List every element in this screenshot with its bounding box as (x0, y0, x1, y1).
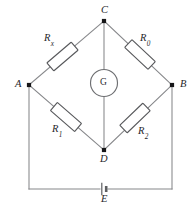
resistor-label-r2-name: R (138, 125, 144, 136)
wheatstone-bridge-figure: C A B D Rx R0 R1 R2 G E (0, 0, 196, 216)
node-label-c: C (101, 5, 108, 16)
resistor-label-r1-name: R (52, 123, 58, 134)
resistor-label-rx-subscript: x (51, 40, 54, 48)
branch-d-b (104, 85, 172, 150)
node-dot-a (27, 83, 31, 87)
node-dot-d (102, 148, 106, 152)
branch-a-d (29, 85, 104, 150)
node-dot-b (170, 83, 174, 87)
node-label-a: A (15, 79, 21, 90)
resistor-label-rx: Rx (44, 33, 54, 46)
resistor-label-r0: R0 (140, 33, 150, 46)
resistor-label-r1: R1 (52, 124, 62, 137)
resistor-label-r0-subscript: 0 (147, 40, 151, 48)
resistor-label-r2-subscript: 2 (145, 133, 149, 141)
node-label-b: B (180, 79, 186, 90)
node-dot-c (102, 19, 106, 23)
resistor-label-r1-subscript: 1 (59, 131, 63, 139)
battery-label-e: E (101, 194, 107, 205)
node-label-d: D (100, 154, 108, 165)
outer-supply-loop (29, 85, 172, 195)
galvanometer-label: G (100, 78, 107, 88)
circuit-svg (0, 0, 196, 216)
resistor-label-r0-name: R (140, 32, 146, 43)
resistor-label-rx-name: R (44, 32, 50, 43)
resistor-label-r2: R2 (138, 126, 148, 139)
